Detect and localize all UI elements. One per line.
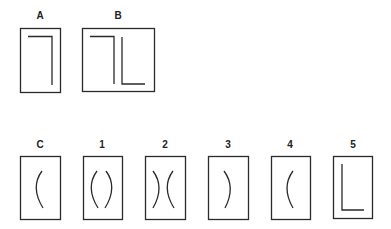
option-4[interactable] bbox=[272, 157, 311, 220]
analogy-diagram bbox=[0, 0, 391, 229]
figure-a bbox=[21, 29, 61, 93]
option-2[interactable] bbox=[146, 157, 186, 220]
option-1[interactable] bbox=[84, 157, 123, 220]
figure-c bbox=[21, 157, 61, 220]
option-3[interactable] bbox=[209, 157, 249, 220]
option-5[interactable] bbox=[334, 157, 373, 219]
figure-b bbox=[83, 29, 155, 92]
